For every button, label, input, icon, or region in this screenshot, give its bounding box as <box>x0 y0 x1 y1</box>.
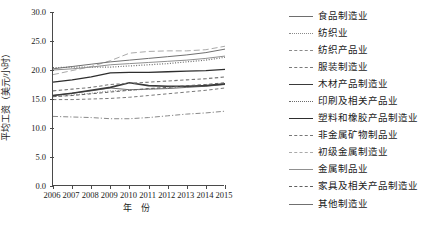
plot-area <box>52 12 224 186</box>
x-tick-mark <box>206 185 207 189</box>
legend-item[interactable]: 家具及相关产品制造业 <box>289 178 431 195</box>
legend-item-label: 其他制造业 <box>318 199 368 209</box>
y-tick-label: 5.0 <box>20 153 46 162</box>
x-tick-mark <box>110 185 111 189</box>
y-tick-label: 30.0 <box>20 8 46 17</box>
legend-line-swatch <box>289 199 313 209</box>
series-line <box>53 69 225 82</box>
legend-item[interactable]: 金属制品业 <box>289 161 431 178</box>
line-chart: 平均工资（美元/小时） 30.025.020.015.010.05.00.0 2… <box>0 0 431 233</box>
legend-item-label: 非金属矿物制品业 <box>318 130 398 140</box>
y-axis-title: 平均工资（美元/小时） <box>0 0 13 190</box>
legend-line-swatch <box>289 113 313 123</box>
legend-line-swatch <box>289 62 313 72</box>
legend-item-label: 初级金属制造业 <box>318 147 388 157</box>
legend-item-label: 食品制造业 <box>318 11 368 21</box>
x-tick-mark <box>129 185 130 189</box>
legend-item-label: 塑料和橡胶产品制造业 <box>318 113 418 123</box>
legend-item[interactable]: 其他制造业 <box>289 195 431 212</box>
y-tick-label: 0.0 <box>20 182 46 191</box>
legend-item[interactable]: 食品制造业 <box>289 7 431 24</box>
x-tick-label: 2015 <box>213 190 235 200</box>
legend-item[interactable]: 纺织业 <box>289 24 431 41</box>
y-tick-mark <box>50 12 54 13</box>
x-tick-mark <box>53 185 54 189</box>
legend-item[interactable]: 塑料和橡胶产品制造业 <box>289 110 431 127</box>
series-line <box>53 56 225 70</box>
legend-line-swatch <box>289 28 313 38</box>
x-axis-tick-labels: 2006200720082009201020112012201320142015 <box>49 190 229 202</box>
legend-line-swatch <box>289 11 313 21</box>
legend-item-label: 家具及相关产品制造业 <box>318 181 418 191</box>
legend-item[interactable]: 非金属矿物制品业 <box>289 127 431 144</box>
x-tick-mark <box>187 185 188 189</box>
legend-item-label: 木材产品制造业 <box>318 79 388 89</box>
y-tick-mark <box>50 99 54 100</box>
y-tick-label: 10.0 <box>20 124 46 133</box>
legend-item-label: 印刷及相关产品业 <box>318 96 398 106</box>
legend-line-swatch <box>289 130 313 140</box>
chart-legend: 食品制造业纺织业纺织产品业服装制造业木材产品制造业印刷及相关产品业塑料和橡胶产品… <box>289 7 431 212</box>
x-tick-mark <box>225 185 226 189</box>
x-tick-mark <box>149 185 150 189</box>
legend-line-swatch <box>289 181 313 191</box>
legend-item[interactable]: 印刷及相关产品业 <box>289 92 431 109</box>
legend-line-swatch <box>289 147 313 157</box>
y-tick-label: 20.0 <box>20 66 46 75</box>
y-tick-mark <box>50 41 54 42</box>
series-lines <box>53 12 225 186</box>
y-tick-label: 25.0 <box>20 37 46 46</box>
y-tick-mark <box>50 157 54 158</box>
x-tick-mark <box>168 185 169 189</box>
series-line <box>53 111 225 119</box>
legend-item[interactable]: 服装制造业 <box>289 58 431 75</box>
legend-item-label: 纺织产品业 <box>318 45 368 55</box>
legend-item[interactable]: 木材产品制造业 <box>289 75 431 92</box>
x-axis-title: 年 份 <box>52 203 224 214</box>
y-tick-mark <box>50 70 54 71</box>
legend-item-label: 金属制品业 <box>318 164 368 174</box>
legend-line-swatch <box>289 79 313 89</box>
legend-item[interactable]: 初级金属制造业 <box>289 144 431 161</box>
legend-item-label: 服装制造业 <box>318 62 368 72</box>
legend-line-swatch <box>289 96 313 106</box>
legend-item[interactable]: 纺织产品业 <box>289 41 431 58</box>
legend-item-label: 纺织业 <box>318 28 348 38</box>
x-tick-mark <box>72 185 73 189</box>
y-tick-label: 15.0 <box>20 95 46 104</box>
legend-line-swatch <box>289 45 313 55</box>
y-tick-mark <box>50 128 54 129</box>
legend-line-swatch <box>289 164 313 174</box>
x-tick-mark <box>91 185 92 189</box>
